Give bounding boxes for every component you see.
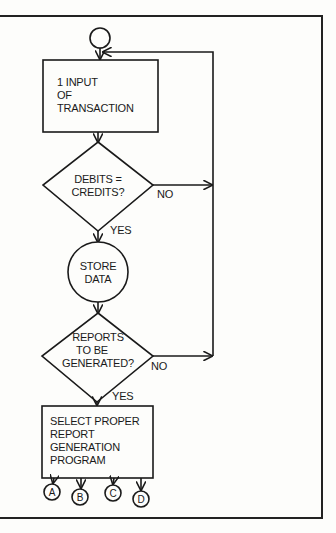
select-program-box: SELECT PROPER REPORT GENERATION PROGRAM <box>42 406 153 478</box>
reports-line-3: GENERATED? <box>62 357 134 369</box>
svg-text:D: D <box>137 494 144 505</box>
select-box-line-4: PROGRAM <box>50 454 105 466</box>
balance-line-2: CREDITS? <box>72 186 125 198</box>
store-data-circle: STORE DATA <box>68 242 128 302</box>
connector-b: B <box>72 478 88 505</box>
connector-c: C <box>105 478 121 501</box>
reports-yes-label: YES <box>112 390 133 402</box>
start-terminal <box>90 28 110 48</box>
input-box-line-1: 1 INPUT <box>57 76 98 88</box>
input-box-line-3: TRANSACTION <box>57 102 134 114</box>
store-line-1: STORE <box>80 260 117 272</box>
reports-line-2: TO BE <box>76 344 108 356</box>
balance-line-1: DEBITS = <box>74 173 122 185</box>
balance-no-label: NO <box>157 188 174 200</box>
select-box-line-2: REPORT <box>50 428 95 440</box>
reports-check-diamond: REPORTS TO BE GENERATED? <box>42 313 153 402</box>
connector-a: A <box>44 478 60 500</box>
input-box-line-2: OF <box>57 89 72 101</box>
balance-yes-label: YES <box>110 224 131 236</box>
svg-text:C: C <box>109 488 116 499</box>
select-box-line-3: GENERATION <box>50 441 120 453</box>
balance-check-diamond: DEBITS = CREDITS? <box>43 142 153 231</box>
reports-line-1: REPORTS <box>72 331 124 343</box>
input-transaction-box: 1 INPUT OF TRANSACTION <box>43 60 158 132</box>
select-box-line-1: SELECT PROPER <box>50 415 140 427</box>
reports-no-label: NO <box>151 360 168 372</box>
connector-d: D <box>133 478 149 507</box>
svg-text:A: A <box>49 487 56 498</box>
flowchart-canvas: 1 INPUT OF TRANSACTION DEBITS = CREDITS?… <box>0 0 336 533</box>
store-line-2: DATA <box>85 273 113 285</box>
svg-text:B: B <box>77 492 84 503</box>
